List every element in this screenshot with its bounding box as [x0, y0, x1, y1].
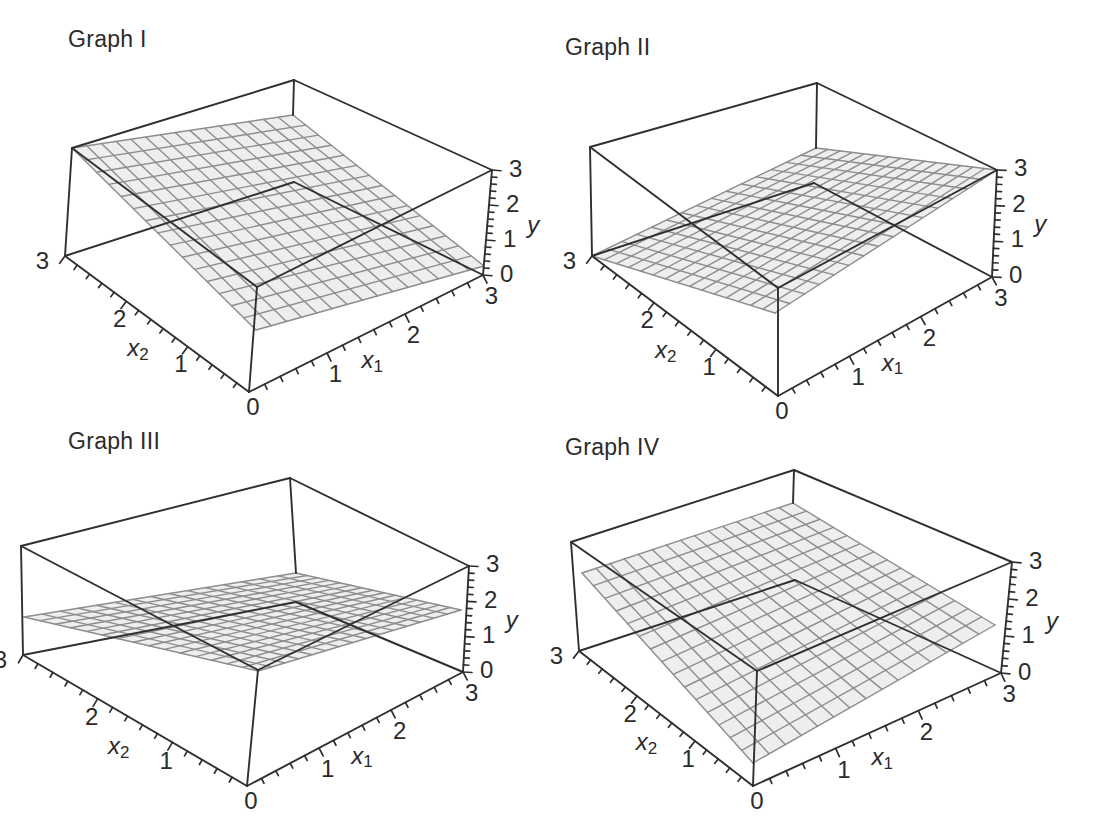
minor-tick [902, 718, 904, 723]
front-vertical-edge [247, 670, 258, 786]
minor-tick [792, 388, 795, 393]
x1-tick-label: 1 [329, 360, 342, 387]
x1-tick-label: 1 [321, 755, 334, 782]
y-tick-label: 1 [1011, 225, 1024, 252]
minor-tick [35, 664, 38, 669]
y-tick-label: 1 [503, 225, 516, 252]
minor-tick [622, 687, 625, 691]
minor-tick [738, 777, 741, 781]
minor-tick [280, 376, 282, 381]
top-back-edge [290, 478, 469, 566]
major-tick [18, 655, 23, 663]
major-tick [492, 170, 501, 171]
minor-tick [1002, 666, 1007, 667]
minor-tick [668, 723, 671, 727]
x2-tick-label: 1 [174, 350, 187, 377]
minor-tick [155, 734, 158, 739]
minor-tick [160, 329, 163, 333]
back-vertical-edge [290, 478, 296, 573]
minor-tick [184, 751, 187, 756]
minor-tick [434, 687, 437, 692]
minor-tick [261, 778, 264, 783]
minor-tick [343, 345, 345, 350]
x2-tick-label: 2 [641, 306, 654, 333]
minor-tick [819, 756, 821, 761]
minor-tick [80, 690, 83, 695]
minor-tick [821, 372, 824, 377]
y-axis-label: y [525, 211, 541, 238]
minor-tick [348, 733, 351, 738]
minor-tick [1008, 606, 1013, 607]
x2-tick-label: 3 [550, 642, 563, 669]
x2-axis-line [23, 655, 247, 786]
right-vertical-edge [1001, 562, 1012, 673]
minor-tick [209, 365, 212, 369]
minor-tick [770, 778, 772, 783]
minor-tick [148, 319, 151, 323]
x2-tick-label: 2 [85, 703, 98, 730]
major-tick [483, 275, 492, 276]
minor-tick [50, 672, 53, 677]
minor-tick [172, 338, 175, 342]
x2-tick-label: 3 [0, 646, 7, 673]
surface-plots-svg: 12312300123x1x2y12312300123x1x2y12312300… [0, 0, 1100, 839]
back-vertical-edge [793, 470, 794, 503]
y-tick-label: 0 [500, 260, 513, 287]
minor-tick [737, 368, 740, 372]
minor-tick [199, 760, 202, 765]
minor-tick [750, 377, 753, 381]
major-tick [463, 672, 472, 673]
minor-tick [949, 301, 952, 306]
minor-tick [333, 740, 336, 745]
y-tick-label: 0 [1009, 261, 1022, 288]
minor-tick [358, 337, 360, 342]
major-tick [486, 240, 495, 241]
x1-axis-label: x1 [350, 742, 372, 772]
minor-tick [214, 769, 217, 774]
minor-tick [762, 387, 765, 391]
minor-tick [984, 681, 986, 686]
minor-tick [362, 725, 365, 730]
minor-tick [703, 750, 706, 754]
origin-label: 0 [750, 787, 763, 814]
minor-tick [1011, 577, 1016, 578]
minor-tick [807, 380, 810, 385]
minor-tick [374, 330, 376, 335]
major-tick [60, 256, 65, 263]
graph-ii: 12312300123x1x2y [563, 83, 1049, 424]
graph-i-title: Graph I [68, 26, 147, 53]
minor-tick [229, 777, 232, 782]
minor-tick [657, 714, 660, 718]
surface-mesh [592, 148, 997, 313]
x1-axis-line [778, 277, 992, 396]
minor-tick [99, 283, 102, 287]
minor-tick [389, 322, 391, 327]
left-vertical-edge [571, 542, 579, 651]
minor-tick [1003, 651, 1008, 652]
minor-tick [276, 771, 279, 776]
major-tick [467, 601, 476, 602]
y-tick-label: 3 [509, 155, 522, 182]
minor-tick [125, 716, 128, 721]
minor-tick [885, 726, 887, 731]
surface-mesh [72, 115, 484, 330]
y-tick-label: 3 [486, 550, 499, 577]
minor-tick [978, 285, 981, 290]
x1-axis-label: x1 [881, 349, 903, 379]
x2-axis-ticks [18, 655, 232, 782]
minor-tick [420, 695, 423, 700]
surface-fill [24, 573, 461, 671]
minor-tick [675, 321, 678, 325]
major-tick [573, 651, 579, 658]
minor-tick [1007, 614, 1012, 615]
x1-tick-label: 2 [920, 718, 933, 745]
minor-tick [140, 725, 143, 730]
minor-tick [680, 732, 683, 736]
minor-tick [296, 369, 298, 374]
minor-tick [86, 274, 89, 278]
minor-tick [968, 688, 970, 693]
y-tick-label: 2 [1025, 584, 1038, 611]
graph-i: 12312300123x1x2y [36, 80, 542, 420]
minor-tick [197, 356, 200, 360]
minor-tick [864, 348, 867, 353]
